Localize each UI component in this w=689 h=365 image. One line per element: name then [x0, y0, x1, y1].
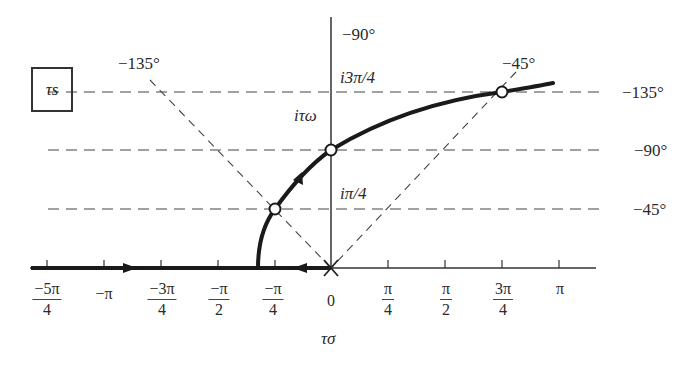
point-minus135	[497, 87, 508, 98]
tick-label-minuspi4: −π4	[262, 281, 283, 319]
tick-label-pi4: π4	[382, 281, 394, 319]
arrow-right-icon	[123, 263, 137, 273]
tick-label-minus5pi4: −5π4	[32, 281, 61, 319]
x-axis-label: τσ	[321, 330, 335, 347]
tick-label-zero: 0	[327, 292, 335, 310]
point-minus90	[326, 145, 337, 156]
point-minus45	[270, 204, 281, 215]
ipi4-label: iπ/4	[340, 185, 366, 202]
tick-label-minus3pi4: −3π4	[147, 281, 176, 319]
h135-label: −135°	[622, 84, 664, 101]
plane-label: τs	[46, 80, 59, 100]
top-axis-label: −90°	[342, 26, 375, 43]
diag-left-label: −135°	[118, 55, 160, 72]
tick-label-pi: π	[556, 280, 564, 298]
h45-label: −45°	[633, 201, 666, 218]
y-axis-label: iτω	[294, 107, 317, 124]
h90-label: −90°	[634, 142, 667, 159]
plane-label-box: τs	[31, 67, 73, 112]
radial-line-minus45	[331, 72, 516, 268]
tick-label-pi2: π2	[440, 281, 452, 319]
tick-label-3pi4: 3π4	[493, 281, 513, 319]
tick-label-minuspi: −π	[95, 285, 112, 303]
tick-label-minuspi2: −π2	[208, 281, 229, 319]
root-locus-diagram	[0, 0, 689, 365]
arrow-left-icon	[293, 263, 307, 273]
diag-right-label: −45°	[502, 55, 535, 72]
i3pi4-label: i3π/4	[340, 69, 375, 86]
